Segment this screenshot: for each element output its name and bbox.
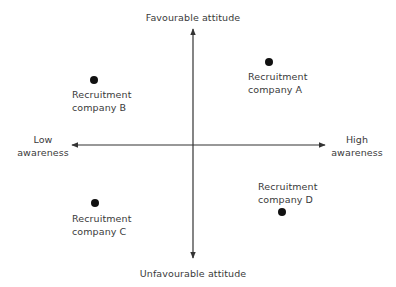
company-c-line1: Recruitment xyxy=(72,212,131,225)
company-c-line2: company C xyxy=(72,225,131,238)
company-d-line1: Recruitment xyxy=(258,180,317,193)
company-c-label: Recruitment company C xyxy=(72,212,131,238)
low-label-line2: awareness xyxy=(14,146,72,159)
axis-label-unfavourable: Unfavourable attitude xyxy=(138,267,248,280)
axis-label-favourable: Favourable attitude xyxy=(143,11,243,24)
company-a-line2: company A xyxy=(248,83,307,96)
company-d-dot xyxy=(278,208,286,216)
company-d-line2: company D xyxy=(258,193,317,206)
company-b-line2: company B xyxy=(72,101,131,114)
axis-label-low-awareness: Low awareness xyxy=(14,133,72,159)
company-c-dot xyxy=(91,199,99,207)
company-a-dot xyxy=(265,58,273,66)
company-b-label: Recruitment company B xyxy=(72,88,131,114)
low-label-line1: Low xyxy=(14,133,72,146)
company-d-label: Recruitment company D xyxy=(258,180,317,206)
high-label-line2: awareness xyxy=(328,146,386,159)
company-a-label: Recruitment company A xyxy=(248,70,307,96)
company-b-line1: Recruitment xyxy=(72,88,131,101)
company-a-line1: Recruitment xyxy=(248,70,307,83)
high-label-line1: High xyxy=(328,133,386,146)
axis-label-high-awareness: High awareness xyxy=(328,133,386,159)
perceptual-map: Favourable attitude Unfavourable attitud… xyxy=(0,0,396,287)
company-b-dot xyxy=(90,76,98,84)
